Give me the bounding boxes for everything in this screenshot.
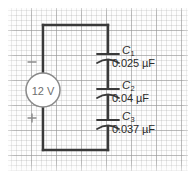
capacitor-1-value: 0.025 µF: [112, 58, 155, 69]
capacitor-2-symbol: C: [122, 79, 130, 91]
capacitor-3-symbol: C: [122, 110, 130, 122]
capacitor-3-name: C3: [122, 111, 134, 123]
circuit-diagram-figure: 12 V C1 0.025 µF C2 0.04 µF C3 0.037 µF: [0, 0, 196, 179]
capacitor-3-value: 0.037 µF: [112, 124, 155, 135]
voltage-source-label: 12 V: [26, 85, 60, 97]
capacitor-2-name: C2: [122, 80, 134, 92]
capacitor-1-name: C1: [122, 45, 134, 57]
capacitor-1-symbol: C: [122, 44, 130, 56]
capacitor-2-value: 0.04 µF: [112, 93, 149, 104]
terminal-positive-marker: [28, 114, 36, 122]
